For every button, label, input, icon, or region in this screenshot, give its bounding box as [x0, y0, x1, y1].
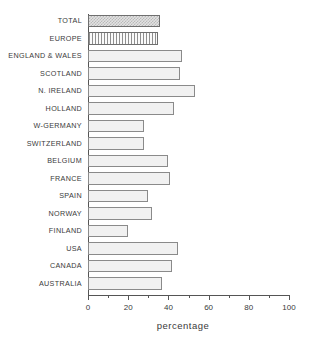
- x-axis-tick-label: 20: [124, 303, 133, 312]
- x-axis-tick-label: 40: [164, 303, 173, 312]
- bar: [88, 32, 158, 45]
- bar-row: USA: [0, 242, 326, 260]
- x-axis-tick-label: 0: [86, 303, 90, 312]
- bar-row: SPAIN: [0, 189, 326, 207]
- bar-category-label: USA: [0, 242, 82, 256]
- bar-row: W-GERMANY: [0, 119, 326, 137]
- bar-row: HOLLAND: [0, 102, 326, 120]
- x-axis-major-tick: [168, 295, 169, 300]
- x-axis-title: percentage: [0, 320, 326, 331]
- bar-chart: 020406080100 percentage TOTALEUROPEENGLA…: [0, 0, 326, 345]
- bar: [88, 207, 152, 220]
- bar: [88, 50, 182, 63]
- x-axis-major-tick: [249, 295, 250, 300]
- x-axis-title-label: percentage: [117, 320, 210, 331]
- bar-row: ENGLAND & WALES: [0, 49, 326, 67]
- bar-category-label: ENGLAND & WALES: [0, 49, 82, 63]
- bar: [88, 277, 162, 290]
- bar-category-label: SWITZERLAND: [0, 137, 82, 151]
- bar-category-label: FINLAND: [0, 224, 82, 238]
- bar-row: FINLAND: [0, 224, 326, 242]
- bar-category-label: N. IRELAND: [0, 84, 82, 98]
- bar-category-label: SPAIN: [0, 189, 82, 203]
- bar-category-label: SCOTLAND: [0, 67, 82, 81]
- bar-row: N. IRELAND: [0, 84, 326, 102]
- bar-category-label: CANADA: [0, 259, 82, 273]
- x-axis-tick-label: 60: [204, 303, 213, 312]
- bar-row: SWITZERLAND: [0, 137, 326, 155]
- bar-row: NORWAY: [0, 207, 326, 225]
- x-axis-minor-tick: [189, 295, 190, 298]
- bar: [88, 15, 160, 28]
- x-axis-minor-tick: [269, 295, 270, 298]
- bar-category-label: NORWAY: [0, 207, 82, 221]
- x-axis-tick-label: 100: [282, 303, 295, 312]
- bar-row: TOTAL: [0, 14, 326, 32]
- bar-row: AUSTRALIA: [0, 277, 326, 295]
- bar-row: FRANCE: [0, 172, 326, 190]
- x-axis-major-tick: [88, 295, 89, 300]
- bar-category-label: HOLLAND: [0, 102, 82, 116]
- bar: [88, 155, 168, 168]
- x-axis-minor-tick: [229, 295, 230, 298]
- x-axis-major-tick: [128, 295, 129, 300]
- bar-row: EUROPE: [0, 32, 326, 50]
- x-axis-minor-tick: [148, 295, 149, 298]
- bar-row: SCOTLAND: [0, 67, 326, 85]
- bar-category-label: TOTAL: [0, 14, 82, 28]
- x-axis-minor-tick: [108, 295, 109, 298]
- bar-category-label: W-GERMANY: [0, 119, 82, 133]
- bar: [88, 102, 174, 115]
- x-axis-major-tick: [289, 295, 290, 300]
- bar: [88, 67, 180, 80]
- x-axis-tick-label: 80: [244, 303, 253, 312]
- bar: [88, 225, 128, 238]
- bar: [88, 242, 178, 255]
- bar: [88, 172, 170, 185]
- bar-category-label: AUSTRALIA: [0, 277, 82, 291]
- bar-row: BELGIUM: [0, 154, 326, 172]
- bar-category-label: EUROPE: [0, 32, 82, 46]
- bar: [88, 260, 172, 273]
- x-axis-major-tick: [209, 295, 210, 300]
- bar: [88, 120, 144, 133]
- bar: [88, 190, 148, 203]
- bar-row: CANADA: [0, 259, 326, 277]
- bar: [88, 85, 195, 98]
- bar-category-label: BELGIUM: [0, 154, 82, 168]
- bar-category-label: FRANCE: [0, 172, 82, 186]
- bar: [88, 137, 144, 150]
